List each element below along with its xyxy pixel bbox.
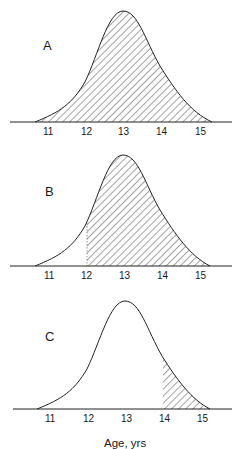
panel-b-shaded-area <box>35 155 210 266</box>
panel-b-tick-12: 12 <box>81 270 93 281</box>
panel-c-tick-15: 15 <box>197 413 209 424</box>
panel-a-tick-11: 11 <box>43 126 54 137</box>
panel-a-tick-13: 13 <box>118 126 130 137</box>
figure: A 11 12 13 14 15 B 11 12 13 14 15 C 11 1… <box>0 0 244 449</box>
panel-b-letter: B <box>45 184 54 199</box>
panel-a-tick-12: 12 <box>81 126 93 137</box>
panel-b-tick-11: 11 <box>44 270 55 281</box>
panel-b: B 11 12 13 14 15 <box>10 155 232 281</box>
panel-a: A 11 12 13 14 15 <box>10 11 232 137</box>
panel-c-tick-12: 12 <box>83 413 95 424</box>
panel-a-letter: A <box>43 38 52 53</box>
panel-c: C 11 12 13 14 15 <box>13 301 232 424</box>
panel-a-tick-15: 15 <box>195 126 207 137</box>
panel-c-tick-13: 13 <box>121 413 133 424</box>
panel-b-tick-14: 14 <box>157 270 169 281</box>
panel-b-tick-15: 15 <box>195 270 207 281</box>
panel-a-tick-14: 14 <box>156 126 168 137</box>
panel-a-shaded-area <box>35 11 212 122</box>
panel-c-tick-14: 14 <box>159 413 171 424</box>
panel-b-tick-13: 13 <box>119 270 131 281</box>
x-axis-label: Age, yrs <box>104 437 146 449</box>
panel-c-shaded-area <box>37 301 210 409</box>
panel-c-letter: C <box>45 329 54 344</box>
panel-c-tick-11: 11 <box>45 413 56 424</box>
